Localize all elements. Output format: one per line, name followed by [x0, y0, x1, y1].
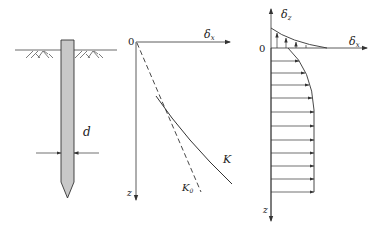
k-label: K: [222, 153, 232, 166]
k0-dashed-line: [137, 43, 201, 192]
distribution-plot: δz δx 0 z: [259, 8, 367, 221]
vertical-displacement-curve: [271, 28, 327, 48]
vertical-axis-label: δz: [281, 8, 292, 22]
x-axis-label: δx: [204, 28, 215, 42]
upward-arrows: [277, 33, 306, 48]
horizontal-arrows: [271, 61, 314, 192]
k-curve: [156, 96, 232, 184]
pile-shaft: [61, 40, 74, 198]
horizontal-displacement-curve: [288, 48, 314, 192]
origin-label: 0: [259, 43, 265, 54]
horizontal-axis-label: δx: [349, 35, 360, 49]
figure-canvas: d 0 δx z K0 K δz δx 0 z: [0, 0, 381, 229]
origin-label: 0: [128, 36, 134, 47]
soil-hatch-left: [26, 51, 53, 58]
displacement-plot: 0 δx z K0 K: [126, 28, 232, 200]
z-axis-label: z: [262, 205, 268, 215]
z-axis-label: z: [126, 188, 132, 198]
k0-label: K0: [181, 182, 193, 194]
diameter-label: d: [83, 125, 91, 139]
soil-hatch-right: [75, 51, 103, 58]
pile-diagram: d: [15, 40, 117, 198]
